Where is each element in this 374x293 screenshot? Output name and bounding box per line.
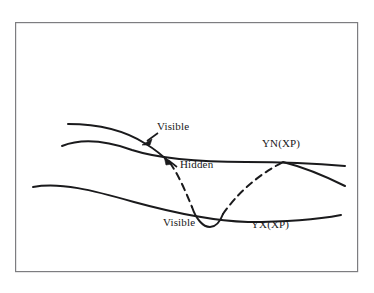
- figure-root: Visible Hidden YN(XP) Visible YX(XP): [0, 0, 374, 293]
- label-visible-upper: Visible: [157, 121, 189, 132]
- diagram-border-group: [16, 23, 358, 272]
- profile-curve-visible-upper-segment: [68, 124, 170, 163]
- diagram-border: [16, 23, 358, 272]
- label-yn-xp: YN(XP): [262, 138, 300, 149]
- profile-curve-visible-dip-segment: [192, 207, 223, 227]
- diagram-canvas: [0, 0, 374, 293]
- label-yx-xp: YX(XP): [251, 219, 289, 230]
- label-visible-lower: Visible: [163, 217, 195, 228]
- profile-curve-hidden-rising-segment: [223, 162, 283, 214]
- label-hidden: Hidden: [180, 159, 213, 170]
- annotation-arrows-group: [142, 133, 177, 167]
